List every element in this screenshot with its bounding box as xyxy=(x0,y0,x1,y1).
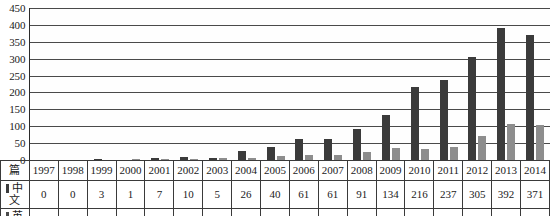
bar-group xyxy=(521,8,550,160)
table-cell-中文-2004: 26 xyxy=(232,181,261,209)
table-body: 中文003171052640616191134216237305392371英文… xyxy=(1,181,550,217)
legend-swatch-icon xyxy=(6,184,9,193)
bar-中文-2007 xyxy=(324,139,332,160)
bar-中文-2011 xyxy=(440,80,448,160)
table-col-header-2003: 2003 xyxy=(203,161,232,181)
table-cell-英文-2003: 7 xyxy=(203,209,232,217)
bar-group xyxy=(463,8,492,160)
table-col-header-2012: 2012 xyxy=(463,161,492,181)
table-cell-英文-2009: 35 xyxy=(376,209,405,217)
series-label-英文: 英文 xyxy=(1,209,30,217)
bar-中文-2004 xyxy=(238,151,246,160)
table-col-header-2011: 2011 xyxy=(434,161,463,181)
table-col-header-1998: 1998 xyxy=(58,161,87,181)
table-col-header-2010: 2010 xyxy=(405,161,434,181)
bar-英文-2009 xyxy=(392,148,400,160)
table-col-header-2005: 2005 xyxy=(261,161,290,181)
bar-中文-2006 xyxy=(295,139,303,160)
table-cell-英文-2010: 34 xyxy=(405,209,434,217)
table-cell-中文-2006: 61 xyxy=(289,181,318,209)
bar-group xyxy=(290,8,319,160)
bar-英文-2011 xyxy=(450,147,458,160)
table-col-header-2004: 2004 xyxy=(232,161,261,181)
table-col-header-2009: 2009 xyxy=(376,161,405,181)
bar-中文-2010 xyxy=(411,87,419,160)
table-cell-英文-2007: 15 xyxy=(318,209,347,217)
table-cell-中文-1999: 3 xyxy=(87,181,116,209)
bar-英文-2010 xyxy=(421,149,429,160)
table-cell-中文-2008: 91 xyxy=(347,181,376,209)
bar-group xyxy=(88,8,117,160)
y-axis-tick: 150 xyxy=(9,104,25,115)
bar-group xyxy=(434,8,463,160)
bar-group xyxy=(146,8,175,160)
table-cell-英文-2006: 16 xyxy=(289,209,318,217)
table-col-header-1997: 1997 xyxy=(29,161,58,181)
table-cell-英文-2000: 4 xyxy=(116,209,145,217)
bar-中文-2014 xyxy=(526,35,534,160)
table-cell-中文-2002: 10 xyxy=(174,181,203,209)
y-axis-tick: 350 xyxy=(9,36,25,47)
y-axis-tick: 450 xyxy=(9,3,25,14)
table-row: 英文101444761116152335343871107105 xyxy=(1,209,550,217)
y-axis: 450400350300250200150100500 xyxy=(0,8,29,160)
table-col-header-2013: 2013 xyxy=(492,161,521,181)
bars-layer xyxy=(30,8,549,160)
table-cell-英文-2014: 105 xyxy=(521,209,550,217)
data-table: 篇 19971998199920002001200220032004200520… xyxy=(0,160,550,216)
table-cell-中文-2003: 5 xyxy=(203,181,232,209)
table-col-header-2008: 2008 xyxy=(347,161,376,181)
table-cell-英文-1998: 0 xyxy=(58,209,87,217)
series-label-中文: 中文 xyxy=(1,181,30,209)
y-axis-tick: 400 xyxy=(9,19,25,30)
table-cell-中文-2005: 40 xyxy=(261,181,290,209)
bar-group xyxy=(175,8,204,160)
bar-group xyxy=(117,8,146,160)
bar-中文-2005 xyxy=(267,147,275,161)
bar-group xyxy=(319,8,348,160)
table-cell-中文-2000: 1 xyxy=(116,181,145,209)
bar-group xyxy=(232,8,261,160)
table-cell-英文-2011: 38 xyxy=(434,209,463,217)
table-cell-英文-2001: 4 xyxy=(145,209,174,217)
table-cell-中文-2013: 392 xyxy=(492,181,521,209)
table-cell-英文-2012: 71 xyxy=(463,209,492,217)
table-cell-中文-1998: 0 xyxy=(58,181,87,209)
bar-group xyxy=(405,8,434,160)
table-row: 篇 19971998199920002001200220032004200520… xyxy=(1,161,550,181)
table-cell-中文-2014: 371 xyxy=(521,181,550,209)
series-label-text: 中文 xyxy=(9,182,23,206)
table-cell-中文-1997: 0 xyxy=(29,181,58,209)
bar-中文-2009 xyxy=(382,115,390,160)
table-cell-英文-2004: 6 xyxy=(232,209,261,217)
y-axis-tick: 250 xyxy=(9,70,25,81)
table-row: 中文003171052640616191134216237305392371 xyxy=(1,181,550,209)
table-cell-英文-1999: 1 xyxy=(87,209,116,217)
legend-swatch-icon xyxy=(6,212,9,216)
table-cell-中文-2001: 7 xyxy=(145,181,174,209)
plot-wrapper: 450400350300250200150100500 xyxy=(0,8,550,160)
table-col-header-2001: 2001 xyxy=(145,161,174,181)
table-cell-英文-2013: 107 xyxy=(492,209,521,217)
table-col-header-2000: 2000 xyxy=(116,161,145,181)
table-col-header-2002: 2002 xyxy=(174,161,203,181)
table-cell-中文-2010: 216 xyxy=(405,181,434,209)
bar-group xyxy=(492,8,521,160)
plot-area xyxy=(29,8,549,160)
series-label-text: 英文 xyxy=(9,210,23,216)
y-axis-tick: 300 xyxy=(9,53,25,64)
table-col-header-1999: 1999 xyxy=(87,161,116,181)
bar-英文-2008 xyxy=(363,152,371,160)
bar-group xyxy=(203,8,232,160)
y-axis-tick: 200 xyxy=(9,87,25,98)
bar-group xyxy=(377,8,406,160)
table-header: 篇 19971998199920002001200220032004200520… xyxy=(1,161,550,181)
bar-group xyxy=(59,8,88,160)
bar-group xyxy=(261,8,290,160)
y-axis-tick: 50 xyxy=(15,138,26,149)
table-cell-中文-2009: 134 xyxy=(376,181,405,209)
table-cell-英文-1997: 1 xyxy=(29,209,58,217)
table-cell-中文-2012: 305 xyxy=(463,181,492,209)
y-axis-tick: 100 xyxy=(9,121,25,132)
bar-group xyxy=(30,8,59,160)
